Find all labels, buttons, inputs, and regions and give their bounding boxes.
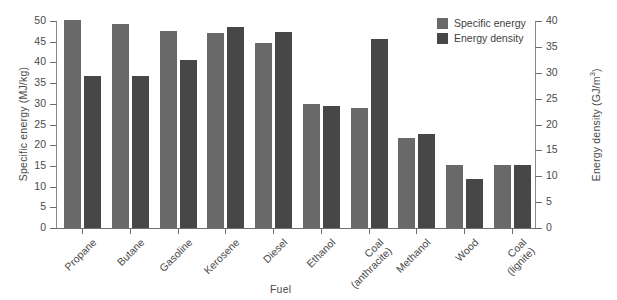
- y-axis-left-tick: [50, 145, 57, 146]
- legend: Specific energy Energy density: [437, 17, 526, 47]
- y-axis-right-title-prefix: Energy density (GJ/m: [590, 76, 602, 181]
- y-axis-right-tick-label: 25: [546, 93, 574, 104]
- y-axis-right-tick-label: 15: [546, 144, 574, 155]
- y-axis-left-tick: [50, 187, 57, 188]
- y-axis-left-tick: [50, 83, 57, 84]
- bar-group: [160, 21, 197, 228]
- bar-group: [64, 21, 101, 228]
- bar-group: [351, 21, 388, 228]
- bar-specific-energy: [207, 33, 224, 228]
- y-axis-left-tick-label: 35: [18, 77, 46, 88]
- y-axis-right-tick-label: 5: [546, 196, 574, 207]
- bar-specific-energy: [351, 108, 368, 228]
- bar-energy-density: [132, 76, 149, 228]
- bar-energy-density: [323, 106, 340, 228]
- bar-energy-density: [84, 76, 101, 228]
- y-axis-left-tick: [50, 207, 57, 208]
- bar-specific-energy: [160, 31, 177, 228]
- bar-group: [494, 21, 531, 228]
- y-axis-left-tick-label: 40: [18, 56, 46, 67]
- x-axis-tick: [273, 228, 274, 234]
- y-axis-right-tick-label: 0: [546, 222, 574, 233]
- bar-energy-density: [227, 27, 244, 228]
- bar-specific-energy: [64, 20, 81, 228]
- y-axis-right-title-suffix: ): [590, 68, 602, 72]
- y-axis-left-tick: [50, 228, 57, 229]
- legend-item-specific-energy: Specific energy: [437, 17, 526, 29]
- y-axis-right-tick-label: 35: [546, 41, 574, 52]
- x-axis-tick: [178, 228, 179, 234]
- y-axis-left-tick-label: 0: [18, 222, 46, 233]
- bar-energy-density: [275, 32, 292, 228]
- bar-specific-energy: [494, 165, 511, 228]
- bar-specific-energy: [255, 43, 272, 228]
- y-axis-right-tick: [535, 125, 542, 126]
- y-axis-right-tick-label: 30: [546, 67, 574, 78]
- x-axis-tick: [464, 228, 465, 234]
- y-axis-right-title: Energy density (GJ/m3): [588, 35, 602, 215]
- legend-item-energy-density: Energy density: [437, 32, 526, 44]
- y-axis-left-tick: [50, 166, 57, 167]
- bar-specific-energy: [398, 138, 415, 228]
- bar-group: [446, 21, 483, 228]
- legend-label-specific-energy: Specific energy: [454, 17, 526, 29]
- y-axis-right-tick: [535, 21, 542, 22]
- bar-group: [112, 21, 149, 228]
- y-axis-right-tick: [535, 228, 542, 229]
- y-axis-right-tick-label: 10: [546, 170, 574, 181]
- legend-swatch-energy-density: [437, 33, 448, 44]
- y-axis-left-tick-label: 50: [18, 15, 46, 26]
- y-axis-right-tick: [535, 47, 542, 48]
- bar-energy-density: [418, 134, 435, 228]
- y-axis-left-tick-label: 10: [18, 181, 46, 192]
- bar-specific-energy: [112, 24, 129, 228]
- y-axis-left-tick: [50, 104, 57, 105]
- x-axis-tick: [82, 228, 83, 234]
- y-axis-right-tick: [535, 202, 542, 203]
- y-axis-left-tick: [50, 21, 57, 22]
- y-axis-right-tick: [535, 73, 542, 74]
- y-axis-left-tick: [50, 62, 57, 63]
- y-axis-right-tick: [535, 99, 542, 100]
- y-axis-left-tick-label: 15: [18, 160, 46, 171]
- bar-group: [303, 21, 340, 228]
- bar-group: [255, 21, 292, 228]
- bar-chart: Specific energy (MJ/kg) Energy density (…: [0, 0, 617, 300]
- y-axis-left-tick-label: 30: [18, 98, 46, 109]
- y-axis-left-tick: [50, 42, 57, 43]
- x-axis-tick: [321, 228, 322, 234]
- bar-energy-density: [514, 165, 531, 228]
- bar-energy-density: [466, 179, 483, 228]
- bar-group: [207, 21, 244, 228]
- y-axis-right-title-superscript: 3: [588, 72, 597, 76]
- y-axis-left-tick-label: 5: [18, 201, 46, 212]
- x-axis-tick: [130, 228, 131, 234]
- bar-group: [398, 21, 435, 228]
- y-axis-left-tick: [50, 125, 57, 126]
- x-axis-tick: [416, 228, 417, 234]
- bar-specific-energy: [446, 165, 463, 228]
- x-axis-tick: [225, 228, 226, 234]
- y-axis-right-tick-label: 40: [546, 15, 574, 26]
- legend-label-energy-density: Energy density: [454, 32, 523, 44]
- y-axis-left-tick-label: 25: [18, 119, 46, 130]
- y-axis-right-tick-label: 20: [546, 119, 574, 130]
- y-axis-left-tick-label: 45: [18, 36, 46, 47]
- bar-energy-density: [371, 39, 388, 228]
- x-axis-tick: [512, 228, 513, 234]
- plot-area: [57, 21, 534, 228]
- y-axis-left-tick-label: 20: [18, 139, 46, 150]
- bar-energy-density: [180, 60, 197, 228]
- y-axis-right-tick: [535, 150, 542, 151]
- legend-swatch-specific-energy: [437, 18, 448, 29]
- bar-specific-energy: [303, 104, 320, 228]
- x-axis-tick: [369, 228, 370, 234]
- y-axis-right-tick: [535, 176, 542, 177]
